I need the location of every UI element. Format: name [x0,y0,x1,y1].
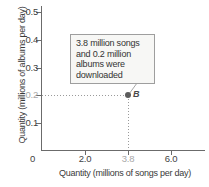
y-tick-label-0-2: 0.2 [25,89,38,100]
annotation-line: albums were [76,59,150,70]
annotation-callout: 3.8 million songs and 0.2 million albums… [70,34,155,84]
guide-line-horizontal [42,95,128,96]
origin-label: 0 [30,153,35,164]
scatter-chart: 0.5 0.4 0.3 0.2 0.1 2.0 3.8 6.0 0 B 3.8 … [0,0,209,187]
y-axis-line [41,6,42,151]
y-tick-label-0-4: 0.4 [25,34,38,45]
x-tick-label-3-8: 3.8 [113,153,143,164]
x-tick-label-2-0: 2.0 [70,153,100,164]
annotation-line: and 0.2 million [76,49,150,60]
data-point-label-b: B [133,89,140,99]
annotation-line: downloaded [76,70,150,81]
y-tick-label-0-3: 0.3 [25,62,38,73]
annotation-line: 3.8 million songs [76,38,150,49]
x-axis-title: Quantity (millions of songs per day) [41,168,209,178]
x-axis-line [41,150,205,151]
y-tick-label-0-5: 0.5 [25,6,38,17]
y-axis-title: Quantity (millions of albums per day) [17,0,27,155]
y-tick-label-0-1: 0.1 [25,117,38,128]
data-point-b [125,92,131,98]
x-tick-label-6-0: 6.0 [156,153,186,164]
guide-line-vertical [128,96,129,150]
